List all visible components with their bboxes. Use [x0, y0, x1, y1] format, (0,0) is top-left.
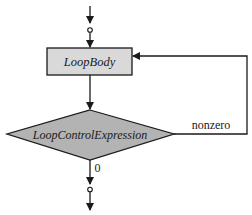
flowchart-canvas: LoopBody LoopControlExpression nonzero 0: [0, 0, 252, 215]
nonzero-label: nonzero: [192, 118, 231, 132]
loop-body-label: LoopBody: [63, 55, 116, 69]
exit-junction-circle: [88, 187, 93, 192]
exit-connector: 0: [88, 160, 101, 210]
nonzero-feedback-edge: nonzero: [133, 56, 247, 134]
loop-control-node: LoopControlExpression: [7, 110, 174, 160]
zero-label: 0: [95, 161, 101, 175]
loop-body-node: LoopBody: [47, 48, 132, 75]
entry-connector: [88, 6, 93, 47]
loop-control-label: LoopControlExpression: [32, 128, 147, 142]
entry-junction-circle: [88, 28, 93, 33]
